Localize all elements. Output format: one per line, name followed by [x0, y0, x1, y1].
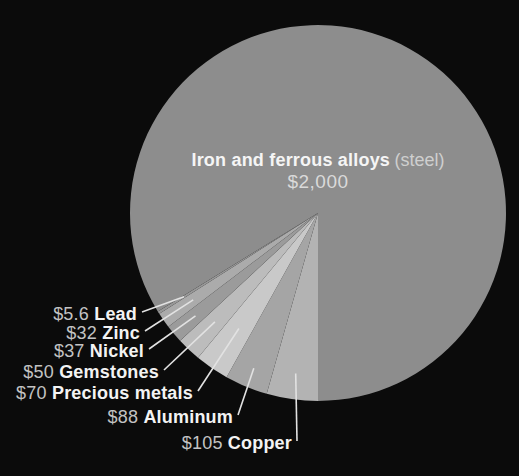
callout-gemstones-name: Gemstones [59, 362, 159, 382]
callout-copper-value: $105 [182, 433, 223, 453]
callout-lead-value: $5.6 [53, 304, 89, 324]
callout-gemstones: $50 Gemstones [23, 362, 159, 382]
callout-nickel-value: $37 [54, 341, 85, 361]
callout-precious-metals-name: Precious metals [52, 383, 193, 403]
steel-slice-label: Iron and ferrous alloys (steel) $2,000 [191, 150, 444, 192]
callout-nickel-name: Nickel [90, 341, 144, 361]
steel-slice-title: Iron and ferrous alloys (steel) [191, 150, 444, 171]
steel-slice-title-note: (steel) [395, 150, 445, 170]
callout-gemstones-value: $50 [23, 362, 54, 382]
callout-lead-name: Lead [94, 304, 137, 324]
callout-copper: $105 Copper [182, 433, 292, 453]
callout-zinc-name: Zinc [102, 323, 140, 343]
callout-precious-metals-value: $70 [16, 383, 47, 403]
callout-aluminum-value: $88 [108, 407, 139, 427]
metal-values-infographic: Iron and ferrous alloys (steel) $2,000 $… [0, 0, 519, 476]
callout-zinc: $32 Zinc [66, 323, 140, 343]
callout-copper-name: Copper [228, 433, 292, 453]
steel-slice-title-bold: Iron and ferrous alloys [191, 150, 390, 170]
callout-zinc-value: $32 [66, 323, 97, 343]
callout-lead: $5.6 Lead [53, 304, 137, 324]
callout-aluminum-name: Aluminum [143, 407, 233, 427]
callout-aluminum: $88 Aluminum [108, 407, 233, 427]
callout-precious-metals: $70 Precious metals [16, 383, 193, 403]
steel-slice-value: $2,000 [191, 171, 444, 192]
callout-nickel: $37 Nickel [54, 341, 144, 361]
pie-chart [0, 0, 519, 476]
